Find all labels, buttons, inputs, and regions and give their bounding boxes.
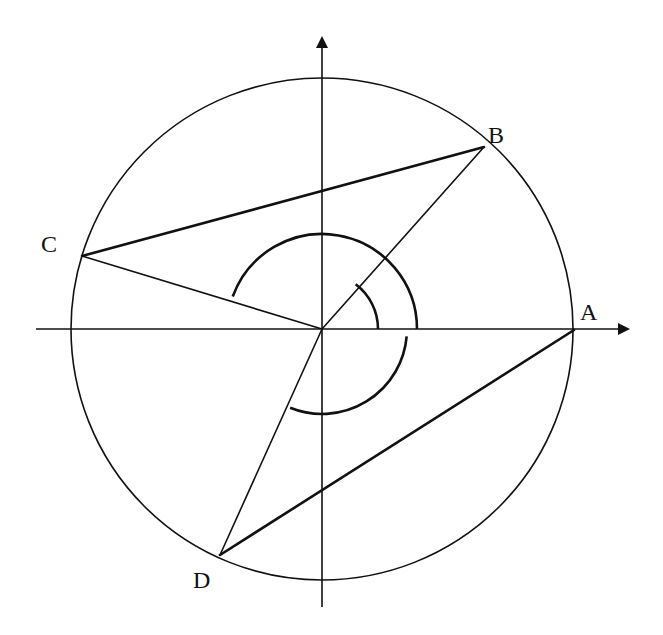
angle-B-arc <box>356 284 378 329</box>
chord-bc <box>82 147 484 256</box>
angle-C-arc <box>233 234 417 329</box>
chords <box>82 147 574 555</box>
radius-oc <box>82 256 322 329</box>
chord-ad <box>220 330 574 555</box>
radii <box>82 147 484 555</box>
point-label-b: B <box>488 122 504 148</box>
angle-arcs <box>233 234 417 414</box>
point-label-d: D <box>193 567 210 593</box>
angle-D-arc <box>290 336 407 414</box>
unit-circle-diagram: A B C D <box>0 0 663 635</box>
point-label-a: A <box>580 299 598 325</box>
point-label-c: C <box>41 231 57 257</box>
